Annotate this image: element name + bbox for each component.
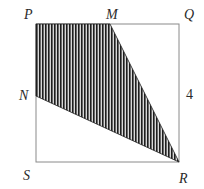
label-q: Q xyxy=(184,7,194,22)
label-p: P xyxy=(23,7,33,22)
label-s: S xyxy=(23,168,30,183)
label-r: R xyxy=(178,171,188,186)
label-n: N xyxy=(18,88,29,103)
label-m: M xyxy=(105,7,119,22)
side-length-label: 4 xyxy=(186,87,193,102)
geometry-diagram: P M Q N S R 4 xyxy=(0,0,204,189)
shaded-region-pmrn xyxy=(36,24,179,162)
